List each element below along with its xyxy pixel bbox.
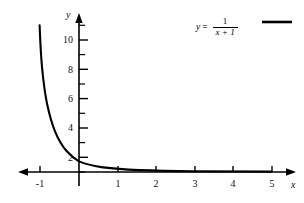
y-axis-top-arrow [75,13,82,23]
legend-equation: y = 1 x + 1 [196,12,238,42]
y-axis-major-ticks [79,40,88,157]
y-tick-label-4: 4 [51,123,73,133]
x-tick-label-1: 1 [109,179,127,189]
y-tick-label-2: 2 [51,153,73,163]
legend: y = 1 x + 1 [196,12,296,42]
x-tick-label-3: 3 [186,179,204,189]
x-tick-label-4: 4 [224,179,242,189]
x-tick-label-5: 5 [263,179,281,189]
legend-numerator: 1 [220,17,231,26]
x-tick-label-minus-1: -1 [31,179,49,189]
legend-fraction: 1 x + 1 [213,17,238,37]
legend-denominator: x + 1 [213,27,238,37]
x-axis-name: x [291,180,295,190]
y-tick-label-6: 6 [51,94,73,104]
x-axis-right-arrow [286,168,296,176]
x-tick-label-2: 2 [147,179,165,189]
legend-y-symbol: y [196,22,200,32]
function-plot-figure: 2 4 6 8 10 -1 1 2 3 4 5 y x y = 1 x + 1 [0,0,304,203]
curve-y-equals-one-over-x-plus-one [40,25,272,171]
legend-equals-sign: = [202,22,207,32]
y-tick-label-10: 10 [51,35,73,45]
y-tick-label-8: 8 [51,65,73,75]
y-axis-name: y [66,10,70,20]
x-axis-left-arrow [18,168,28,176]
